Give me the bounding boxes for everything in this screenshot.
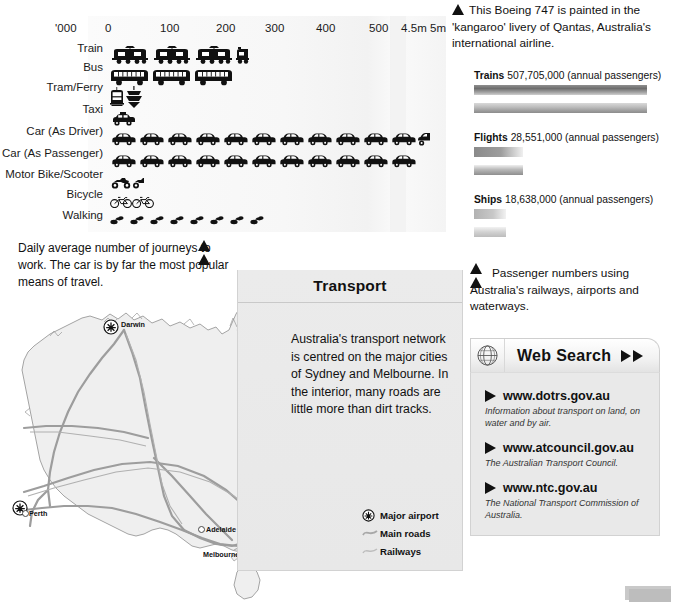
picto-icon [250,132,276,146]
bullet-arrow-icon [485,442,496,454]
web-search-url[interactable]: www.dotrs.gov.au [503,389,610,403]
car-icon [306,154,332,168]
bullet-arrow-icon [485,482,496,494]
triangle-marker-icon [198,240,210,251]
bar-name-ships: Ships [474,194,502,205]
axis-tick-400: 400 [316,22,336,34]
car-icon [278,154,304,168]
car-icon [166,132,192,146]
picto-icon [210,215,224,225]
car-icon [334,132,360,146]
car-icon [222,154,248,168]
picto-icon [230,215,244,225]
transport-panel-title: Transport [313,277,386,295]
bar-name-flights: Flights [474,132,508,143]
bar-value-trains: 507,705,000 [507,70,564,81]
picto-icon [166,154,192,168]
train-icon [194,45,234,65]
bar-group-ships: Ships 18,638,000 (annual passengers) [474,194,674,237]
row-label-bus: Bus [83,61,103,73]
car-icon [390,132,416,146]
web-search-url[interactable]: www.ntc.gov.au [503,481,597,495]
picto-icon [194,69,234,86]
picto-icon-partial [236,45,250,65]
arrow-right-icon [621,350,631,362]
web-search-desc: Information about transport on land, on … [485,405,649,429]
row-label-bicycle: Bicycle [67,188,103,200]
picto-icon [110,195,132,208]
rail-line-icon [362,546,380,556]
bar-label-flights: Flights 28,551,000 (annual passengers) [474,132,674,143]
axis-tick-500: 500 [369,22,389,34]
picto-icon [362,154,388,168]
web-search-link-row[interactable]: www.atcouncil.gov.au [485,441,649,455]
walking-icon [210,215,224,225]
picto-row-walking [110,209,270,231]
legend-label-railways: Railways [380,546,421,557]
axis-tick-5m: 5m [430,22,446,34]
axis-tick-200: 200 [216,22,236,34]
car-icon [110,154,136,168]
caption-passenger-arrows [470,263,482,291]
picto-icon-partial [418,132,430,146]
caption-passenger-numbers: Passenger numbers using Australia's rail… [470,265,676,315]
web-search-link-row[interactable]: www.ntc.gov.au [485,481,649,495]
picto-icon [390,154,416,168]
picto-row-tram-ferry [110,86,142,108]
triangle-marker-icon [452,4,464,15]
picto-icon [362,132,388,146]
chart-axis-break-band [390,16,406,232]
web-search-link-row[interactable]: www.dotrs.gov.au [485,389,649,403]
picto-icon [110,176,132,189]
web-search-title: Web Search [517,347,611,365]
picto-icon [170,215,184,225]
tram-icon [110,87,124,107]
picto-icon [194,45,234,65]
row-label-taxi: Taxi [83,103,103,115]
bullet-arrow-icon [485,390,496,402]
airport-icon [362,509,380,522]
legend-row-airport: Major airport [362,507,462,523]
car-icon [250,132,276,146]
picto-icon-ferry [126,86,142,108]
car-icon [194,132,220,146]
bar-value-ships: 18,638,000 [505,194,557,205]
picto-icon-partial [133,176,144,189]
picto-icon [132,195,154,208]
taxi-icon [110,112,136,126]
footer-decoration-block-shadow [629,589,671,602]
car-icon [194,154,220,168]
web-search-item[interactable]: www.dotrs.gov.au Information about trans… [485,389,649,429]
picto-icon [138,132,164,146]
caption-daily-arrows [198,240,210,268]
car-icon [362,132,388,146]
bar-ships-bottom [474,227,506,237]
axis-tick-100: 100 [160,22,180,34]
city-label-perth: Perth [29,509,47,518]
axis-tick-300: 300 [265,22,285,34]
caption-boeing-text: This Boeing 747 is painted in the 'kanga… [452,3,651,50]
web-search-item[interactable]: www.ntc.gov.au The National Transport Co… [485,481,649,521]
axis-unit-label: '000 [55,22,77,34]
picto-icon [278,154,304,168]
web-search-panel: Web Search www.dotrs.gov.au Information … [470,338,660,536]
double-arrow-icon [621,350,643,362]
picto-icon [390,132,416,146]
car-icon [306,132,332,146]
legend-label-airport: Major airport [380,510,439,521]
car-icon [362,154,388,168]
bar-ships-top [474,209,506,219]
web-search-url[interactable]: www.atcouncil.gov.au [503,441,634,455]
triangle-marker-icon [470,277,482,288]
picto-row-taxi [110,108,138,130]
car-icon [166,154,192,168]
bar-label-trains: Trains 507,705,000 (annual passengers) [474,70,674,81]
picto-icon [306,132,332,146]
caption-boeing: This Boeing 747 is painted in the 'kanga… [452,2,674,52]
picto-icon [110,215,124,225]
car-icon [138,132,164,146]
web-search-item[interactable]: www.atcouncil.gov.au The Australian Tran… [485,441,649,469]
picto-icon [110,69,150,86]
caption-passenger-text: Passenger numbers using Australia's rail… [470,265,676,315]
web-search-desc: The National Transport Commission of Aus… [485,497,649,521]
